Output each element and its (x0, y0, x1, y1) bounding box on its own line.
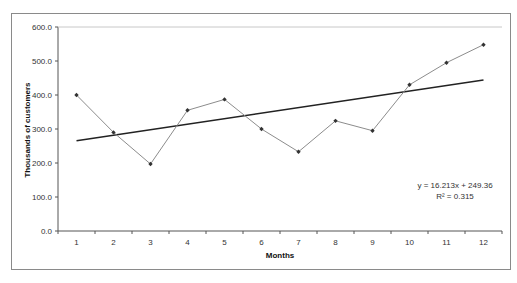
data-point-marker (444, 61, 448, 65)
x-tick-label: 12 (479, 238, 488, 247)
trendline-equation: y = 16.213x + 249.36 (417, 181, 493, 190)
data-point-marker (481, 42, 485, 46)
y-tick-label: 300.0 (32, 125, 53, 134)
chart-series (74, 42, 485, 166)
y-tick-label: 200.0 (32, 159, 53, 168)
x-axis: 123456789101112 (58, 231, 502, 247)
y-tick-label: 400.0 (32, 91, 53, 100)
r-squared-label: R² = 0.315 (436, 192, 474, 201)
x-tick-label: 3 (148, 238, 153, 247)
y-tick-label: 500.0 (32, 57, 53, 66)
y-tick-label: 0.0 (41, 227, 53, 236)
x-tick-label: 9 (370, 238, 375, 247)
x-axis-title: Months (266, 251, 295, 260)
y-axis: 0.0100.0200.0300.0400.0500.0600.0 (32, 23, 502, 236)
y-tick-label: 100.0 (32, 193, 53, 202)
x-tick-label: 2 (111, 238, 116, 247)
x-tick-label: 4 (185, 238, 190, 247)
x-tick-label: 6 (259, 238, 264, 247)
trendline (77, 80, 484, 141)
x-tick-label: 5 (222, 238, 227, 247)
x-tick-label: 1 (74, 238, 79, 247)
x-tick-label: 10 (405, 238, 414, 247)
y-tick-label: 600.0 (32, 23, 53, 32)
x-tick-label: 11 (442, 238, 451, 247)
data-line (77, 45, 484, 164)
line-chart: 0.0100.0200.0300.0400.0500.0600.0 123456… (0, 0, 517, 283)
x-tick-label: 7 (296, 238, 301, 247)
y-axis-title: Thousands of customers (23, 82, 32, 178)
x-tick-label: 8 (333, 238, 338, 247)
